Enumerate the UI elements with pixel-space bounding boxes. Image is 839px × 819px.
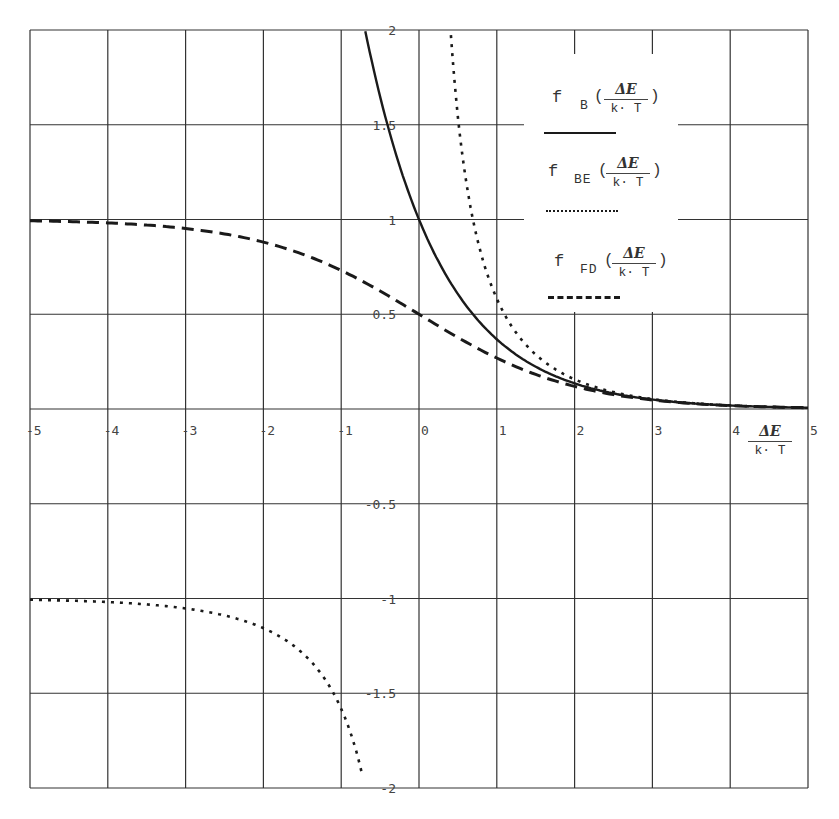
legend-swatch-dotted xyxy=(546,210,618,212)
fraction-numerator: ΔE xyxy=(606,154,650,172)
legend-close-paren: ) xyxy=(658,252,668,270)
x-axis-label-bar xyxy=(748,441,792,442)
legend-close-paren: ) xyxy=(652,162,662,180)
legend-item-b: f B ( ΔE k· T ) xyxy=(524,54,684,140)
legend-swatch-dashed xyxy=(548,296,620,299)
x-axis-label-denominator: k· T xyxy=(748,443,792,459)
x-tick-label: -3 xyxy=(182,423,198,438)
x-tick-label: 5 xyxy=(810,423,818,438)
fraction-denominator: k· T xyxy=(604,101,648,117)
x-tick-label: -5 xyxy=(26,423,42,438)
fraction-numerator: ΔE xyxy=(604,80,648,98)
legend-fraction: ΔE k· T xyxy=(606,154,650,191)
legend-close-paren: ) xyxy=(650,88,660,106)
x-axis-label-numerator: ΔE xyxy=(748,422,792,440)
chart-canvas: -5-4-3-2-101234521.510.5-0.5-1-1.5-2 xyxy=(0,0,839,819)
fraction-numerator: ΔE xyxy=(612,244,656,262)
legend: f B ( ΔE k· T ) f BE ( ΔE k· T ) f FD ( … xyxy=(524,54,678,312)
y-tick-label: -0.5 xyxy=(365,497,396,512)
legend-fraction: ΔE k· T xyxy=(604,80,648,117)
y-tick-label: 0.5 xyxy=(373,307,396,322)
x-tick-label: 2 xyxy=(577,423,585,438)
x-tick-label: 1 xyxy=(499,423,507,438)
x-tick-label: -2 xyxy=(259,423,275,438)
legend-subscript: FD xyxy=(580,262,598,277)
y-tick-label: 2 xyxy=(388,23,396,38)
legend-open-paren: ( xyxy=(594,88,604,106)
x-tick-label: -1 xyxy=(337,423,353,438)
x-tick-label: 4 xyxy=(732,423,740,438)
fraction-denominator: k· T xyxy=(612,265,656,281)
legend-f: f xyxy=(552,88,562,107)
legend-subscript: B xyxy=(580,98,589,113)
fraction-bar xyxy=(604,99,648,100)
y-tick-label: 1 xyxy=(388,213,396,228)
legend-f: f xyxy=(554,252,564,271)
series-be-negative-branch xyxy=(30,600,361,772)
y-tick-label: -1.5 xyxy=(365,686,396,701)
legend-item-fd: f FD ( ΔE k· T ) xyxy=(524,218,684,304)
fraction-bar xyxy=(612,263,656,264)
x-axis-label: ΔE k· T xyxy=(748,422,792,459)
x-tick-label: -4 xyxy=(104,423,120,438)
x-tick-label: 3 xyxy=(654,423,662,438)
y-tick-label: -1 xyxy=(380,592,396,607)
y-tick-label: -2 xyxy=(380,781,396,796)
legend-f: f xyxy=(548,162,558,181)
grid-lines xyxy=(30,30,808,788)
legend-item-be: f BE ( ΔE k· T ) xyxy=(524,132,684,218)
y-tick-label: 1.5 xyxy=(373,118,396,133)
legend-fraction: ΔE k· T xyxy=(612,244,656,281)
legend-subscript: BE xyxy=(574,172,592,187)
x-tick-label: 0 xyxy=(421,423,429,438)
fraction-denominator: k· T xyxy=(606,175,650,191)
fraction-bar xyxy=(606,173,650,174)
